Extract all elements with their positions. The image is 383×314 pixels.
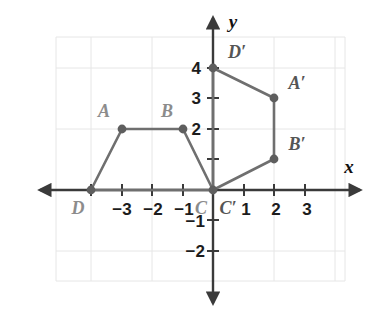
y-axis-tick-labels: 4 3 2 −1 −2 [186, 59, 205, 261]
x-tick-neg2: −2 [143, 200, 162, 219]
y-axis-label: y [227, 11, 238, 32]
coordinate-plane-svg: x y −3 −2 −1 1 2 3 4 3 2 −1 −2 A B C D D… [0, 0, 383, 314]
y-tick-4: 4 [192, 59, 202, 78]
x-tick-3: 3 [302, 200, 311, 219]
label-d: D [71, 198, 85, 218]
x-tick-1: 1 [241, 200, 250, 219]
vertex-d-prime [209, 64, 218, 73]
vertex-b [179, 125, 188, 134]
label-d-prime: D′ [227, 42, 246, 62]
coordinate-plane-figure: x y −3 −2 −1 1 2 3 4 3 2 −1 −2 A B C D D… [0, 0, 383, 314]
x-axis-label: x [343, 156, 354, 177]
label-a-prime: A′ [287, 73, 305, 93]
label-b: B [160, 101, 173, 121]
vertex-a [118, 125, 127, 134]
label-b-prime: B′ [287, 134, 305, 154]
vertex-b-prime [270, 155, 279, 164]
vertex-c [209, 186, 218, 195]
vertex-a-prime [270, 94, 279, 103]
y-tick-3: 3 [192, 89, 201, 108]
label-c-prime: C′ [219, 198, 236, 218]
x-tick-2: 2 [271, 200, 280, 219]
y-tick-2: 2 [192, 120, 201, 139]
label-a: A [97, 101, 110, 121]
x-tick-neg3: −3 [112, 200, 131, 219]
label-c: C [195, 198, 208, 218]
vertex-d [87, 186, 96, 195]
y-tick-neg2: −2 [186, 242, 205, 261]
